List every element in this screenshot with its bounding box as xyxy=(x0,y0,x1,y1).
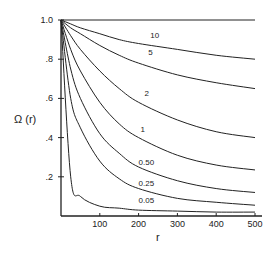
x-tick-label: 300 xyxy=(170,219,185,229)
decay-curves-chart: 105210.500.250.05 .2.4.6.81.0 1002003004… xyxy=(0,0,280,255)
curve-label: 1 xyxy=(141,125,146,134)
curve-label: 10 xyxy=(150,31,159,40)
y-axis-label: Ω (r) xyxy=(14,113,36,125)
curve-label: 0.05 xyxy=(139,196,155,205)
curve-labels-group: 105210.500.250.05 xyxy=(139,31,160,206)
y-tick-label: 1.0 xyxy=(40,15,53,25)
curve-label: 5 xyxy=(148,48,153,57)
x-tick-label: 500 xyxy=(247,219,262,229)
curve-0_05 xyxy=(61,20,255,212)
y-tick-label: .6 xyxy=(45,93,53,103)
curves-group xyxy=(61,20,255,212)
x-tick-label: 100 xyxy=(92,219,107,229)
x-tick-label: 200 xyxy=(131,219,146,229)
curve-label: 2 xyxy=(144,89,149,98)
curve-0_25 xyxy=(61,20,255,205)
y-tick-label: .8 xyxy=(45,54,53,64)
y-tick-label: .4 xyxy=(45,133,53,143)
curve-label: 0.25 xyxy=(139,179,155,188)
curve-label: 0.50 xyxy=(139,158,155,167)
x-tick-label: 400 xyxy=(209,219,224,229)
y-tick-label: .2 xyxy=(45,172,53,182)
x-axis-label: r xyxy=(156,231,160,243)
